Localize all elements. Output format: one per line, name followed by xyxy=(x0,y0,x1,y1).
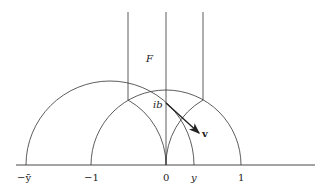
vector-v xyxy=(166,103,199,133)
axis-label-0: 0 xyxy=(163,172,169,183)
vector-label-v: v xyxy=(201,128,209,139)
axis-label-y: y xyxy=(190,172,197,183)
diagram-canvas: F ib v −ȳ −1 0 y 1 xyxy=(0,0,329,187)
axis-label-neg-1: −1 xyxy=(84,172,99,183)
axis-label-1: 1 xyxy=(238,172,244,183)
region-label-F: F xyxy=(145,53,154,64)
point-label-ib: ib xyxy=(153,99,163,110)
geodesic-ybar-y xyxy=(26,81,194,165)
axis-label-neg-ybar: −ȳ xyxy=(17,172,31,183)
